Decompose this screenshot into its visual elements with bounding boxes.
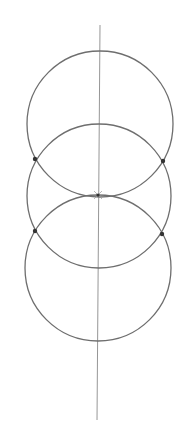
- construction-diagram: [0, 0, 187, 443]
- diagram-canvas: [0, 0, 187, 443]
- center-point: [96, 193, 99, 196]
- intersection-point-lower-left: [33, 229, 37, 233]
- intersection-point-upper-right: [161, 159, 165, 163]
- intersection-point-upper-left: [33, 157, 37, 161]
- vertical-axis-line: [97, 25, 100, 420]
- intersection-point-lower-right: [160, 232, 164, 236]
